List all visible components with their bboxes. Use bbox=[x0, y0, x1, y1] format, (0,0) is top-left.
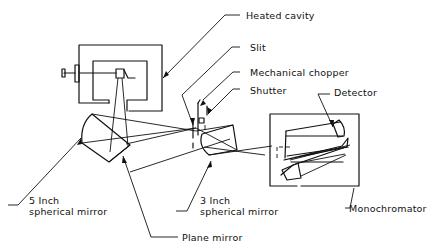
arrowheads bbox=[77, 71, 334, 168]
label-mechanical-chopper: Mechanical chopper bbox=[250, 67, 349, 78]
label-3-inch-line1: 3 Inch bbox=[200, 195, 230, 206]
label-5-inch-line1: 5 Inch bbox=[29, 195, 59, 206]
label-detector: Detector bbox=[334, 87, 377, 98]
optical-diagram: Heated cavity Slit Mechanical chopper Sh… bbox=[0, 0, 429, 252]
label-plane-mirror: Plane mirror bbox=[182, 232, 243, 243]
label-monochromator: Monochromator bbox=[349, 203, 427, 214]
label-5-inch-line2: spherical mirror bbox=[29, 206, 107, 217]
monochromator bbox=[270, 114, 359, 186]
leader-lines bbox=[8, 15, 354, 237]
label-shutter: Shutter bbox=[250, 85, 287, 96]
label-slit: Slit bbox=[250, 42, 266, 53]
label-heated-cavity: Heated cavity bbox=[246, 10, 315, 21]
label-3-inch-line2: spherical mirror bbox=[200, 206, 278, 217]
heated-cavity bbox=[62, 45, 162, 111]
